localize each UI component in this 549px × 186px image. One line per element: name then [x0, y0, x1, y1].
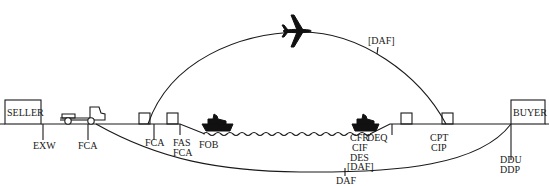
warehouse-box-icon: [167, 113, 178, 124]
ship-icon: [352, 114, 379, 131]
land-route-arc: [96, 124, 511, 172]
buyer-label: BUYER: [513, 107, 547, 118]
daf-air-label: [DAF]: [368, 35, 395, 46]
fca-truck-label: FCA: [78, 140, 98, 151]
exw-label: EXW: [33, 140, 56, 151]
ground-line-origin: [0, 124, 205, 134]
ground-line-destination: [370, 124, 549, 134]
truck-icon: [60, 107, 105, 124]
warehouse-box-icon: [442, 113, 453, 124]
ddp-label: DDP: [500, 164, 520, 175]
daf-land-label: DAF: [336, 175, 356, 186]
fob-label: FOB: [199, 139, 219, 150]
fca-port-label: FCA: [173, 147, 193, 158]
airplane-icon: [282, 15, 311, 47]
cip-label: CIP: [431, 142, 447, 153]
seller-label: SELLER: [7, 107, 44, 118]
seller-box: SELLER: [5, 100, 44, 124]
buyer-box: BUYER: [511, 100, 547, 124]
daf-sea-label: [DAF]: [347, 161, 374, 172]
warehouse-box-icon: [401, 113, 412, 124]
daf-air-tick: [377, 47, 378, 54]
sea-waves-icon: [203, 133, 371, 136]
air-route-arc: [148, 32, 446, 124]
incoterms-diagram: SELLER BUYER [DAF]: [0, 0, 549, 186]
fca-terminal-label: FCA: [145, 137, 165, 148]
deq-label: DEQ: [367, 132, 388, 143]
ship-icon: [202, 114, 233, 131]
